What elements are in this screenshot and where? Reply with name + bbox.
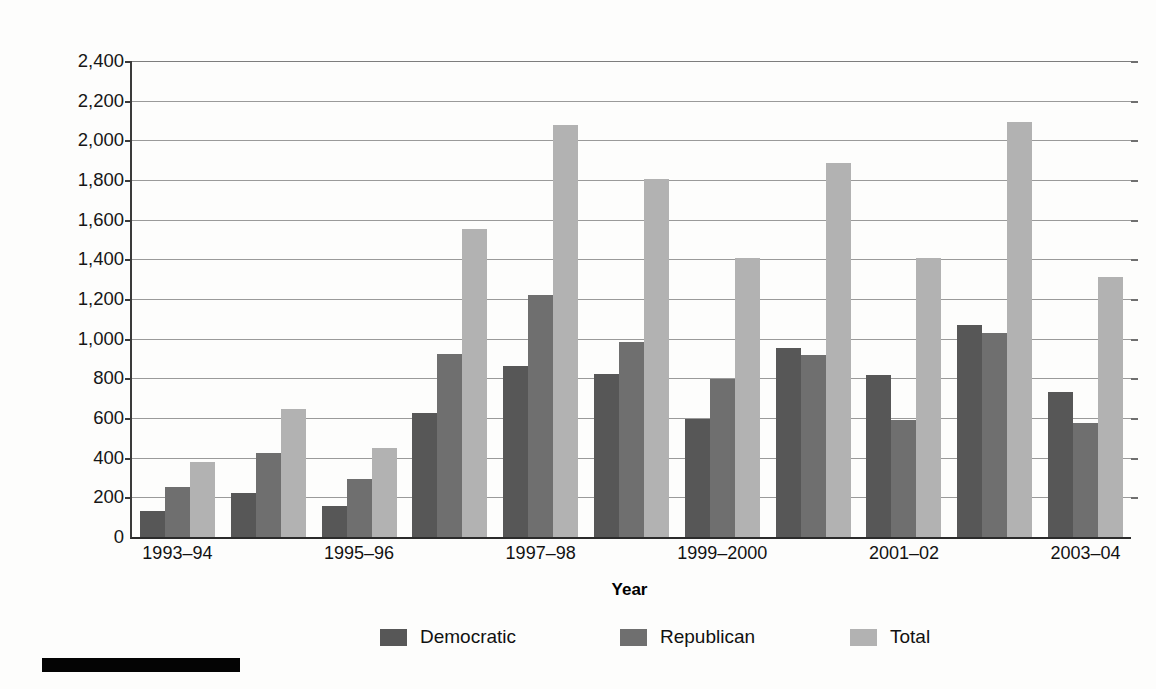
bar-total-2011-12 bbox=[1007, 122, 1032, 538]
y-axis-tick-mark bbox=[125, 180, 132, 182]
bar-republican-2009-10 bbox=[891, 420, 916, 537]
bar-republican-2001-02 bbox=[528, 295, 553, 537]
y-axis-tick-mark bbox=[125, 299, 132, 301]
y-axis-tick-label: 1,200 bbox=[36, 288, 124, 310]
bar-group: 1997–98 bbox=[314, 61, 405, 537]
y-axis-right-tick-mark bbox=[1131, 259, 1138, 261]
legend-label: Republican bbox=[660, 626, 755, 648]
y-axis-tick-mark bbox=[125, 497, 132, 499]
y-axis-right-tick-mark bbox=[1131, 418, 1138, 420]
y-axis-tick-label: 1,800 bbox=[36, 169, 124, 191]
x-axis-tick-label: 2003–04 bbox=[1040, 543, 1131, 564]
bar-total-1999-2000 bbox=[462, 229, 487, 537]
bar-group: 2009–10 bbox=[859, 61, 950, 537]
bar-group: 2003–04 bbox=[586, 61, 677, 537]
bar-democratic-2001-02 bbox=[503, 366, 528, 537]
y-axis-title: Millions of Dollars bbox=[8, 170, 38, 430]
y-axis-right-tick-mark bbox=[1131, 61, 1138, 63]
bar-total-1995-96 bbox=[281, 409, 306, 537]
legend-item-republican[interactable]: Republican bbox=[620, 624, 755, 650]
bar-total-1997-98 bbox=[372, 448, 397, 537]
y-axis-right-tick-mark bbox=[1131, 299, 1138, 301]
bar-group: 1995–96 bbox=[223, 61, 314, 537]
legend-item-democratic[interactable]: Democratic bbox=[380, 624, 516, 650]
x-axis-tick-label: 1997–98 bbox=[495, 543, 586, 564]
bar-group: 2011–12 bbox=[949, 61, 1040, 537]
y-axis-right-tick-mark bbox=[1131, 458, 1138, 460]
y-axis-tick-mark bbox=[125, 378, 132, 380]
bar-democratic-2011-12 bbox=[957, 325, 982, 537]
bar-republican-2011-12 bbox=[982, 333, 1007, 537]
bar-total-1993-94 bbox=[190, 462, 215, 537]
y-axis-tick-mark bbox=[125, 458, 132, 460]
y-axis-right-tick-mark bbox=[1131, 220, 1138, 222]
x-axis-tick-label: 1993–94 bbox=[132, 543, 223, 564]
bar-group: 2007–08 bbox=[768, 61, 859, 537]
bar-republican-1997-98 bbox=[347, 479, 372, 537]
bar-democratic-1999-2000 bbox=[412, 413, 437, 537]
x-axis-tick-label: 2001–02 bbox=[859, 543, 950, 564]
bar-total-2003-04 bbox=[644, 179, 669, 537]
legend-item-total[interactable]: Total bbox=[850, 624, 930, 650]
y-axis-tick-mark bbox=[125, 220, 132, 222]
bar-democratic-2013-14 bbox=[1048, 392, 1073, 537]
y-axis-tick-label: 2,200 bbox=[36, 90, 124, 112]
legend-label: Total bbox=[890, 626, 930, 648]
bar-republican-1995-96 bbox=[256, 453, 281, 537]
bar-republican-1993-94 bbox=[165, 487, 190, 537]
bar-republican-2005-06 bbox=[710, 379, 735, 537]
y-axis-tick-label: 1,600 bbox=[36, 209, 124, 231]
bar-total-2001-02 bbox=[553, 125, 578, 537]
y-axis-right-tick-mark bbox=[1131, 497, 1138, 499]
footer-rule bbox=[42, 658, 240, 672]
legend-swatch-republican bbox=[620, 629, 647, 646]
y-axis-tick-mark bbox=[125, 101, 132, 103]
y-axis-tick-label: 1,400 bbox=[36, 248, 124, 270]
chart-legend: DemocraticRepublicanTotal bbox=[130, 624, 1129, 652]
bar-group: 2013–14 bbox=[1040, 61, 1131, 537]
bar-chart-figure: Millions of Dollars 2,4002,2002,0001,800… bbox=[0, 0, 1156, 689]
bar-republican-2003-04 bbox=[619, 342, 644, 537]
bar-total-2005-06 bbox=[735, 258, 760, 537]
bar-total-2007-08 bbox=[826, 163, 851, 537]
bar-democratic-1995-96 bbox=[231, 493, 256, 537]
legend-swatch-democratic bbox=[380, 629, 407, 646]
bar-democratic-2009-10 bbox=[866, 375, 891, 537]
y-axis-right-tick-mark bbox=[1131, 339, 1138, 341]
bar-democratic-2007-08 bbox=[776, 348, 801, 537]
legend-swatch-total bbox=[850, 629, 877, 646]
bar-group: 1993–94 bbox=[132, 61, 223, 537]
plot-area: 1993–941995–961997–981999–20002001–02200… bbox=[130, 61, 1131, 539]
y-axis-right-tick-mark bbox=[1131, 378, 1138, 380]
y-axis-tick-label: 1,000 bbox=[36, 328, 124, 350]
y-axis-tick-mark bbox=[125, 418, 132, 420]
y-axis-right-tick-mark bbox=[1131, 101, 1138, 103]
bar-republican-2007-08 bbox=[801, 355, 826, 537]
y-axis-tick-labels: 2,4002,2002,0001,8001,6001,4001,2001,000… bbox=[36, 0, 124, 689]
y-axis-tick-label: 0 bbox=[36, 526, 124, 548]
y-axis-tick-label: 200 bbox=[36, 486, 124, 508]
y-axis-tick-label: 400 bbox=[36, 447, 124, 469]
bar-republican-2013-14 bbox=[1073, 423, 1098, 537]
bar-group: 1999–2000 bbox=[404, 61, 495, 537]
legend-label: Democratic bbox=[420, 626, 516, 648]
bar-democratic-2003-04 bbox=[594, 374, 619, 537]
y-axis-tick-label: 800 bbox=[36, 367, 124, 389]
bar-group: 2005–06 bbox=[677, 61, 768, 537]
bar-democratic-1993-94 bbox=[140, 511, 165, 537]
x-axis-title: Year bbox=[130, 580, 1129, 600]
bar-total-2009-10 bbox=[916, 258, 941, 537]
y-axis-tick-label: 600 bbox=[36, 407, 124, 429]
x-axis-tick-label: 1999–2000 bbox=[677, 543, 768, 564]
y-axis-tick-label: 2,400 bbox=[36, 50, 124, 72]
bar-group: 2001–02 bbox=[495, 61, 586, 537]
y-axis-tick-mark bbox=[125, 259, 132, 261]
y-axis-right-tick-mark bbox=[1131, 180, 1138, 182]
bar-republican-1999-2000 bbox=[437, 354, 462, 537]
y-axis-tick-mark bbox=[125, 140, 132, 142]
bar-total-2013-14 bbox=[1098, 277, 1123, 537]
y-axis-tick-mark bbox=[125, 339, 132, 341]
bar-democratic-2005-06 bbox=[685, 419, 710, 537]
bar-democratic-1997-98 bbox=[322, 506, 347, 537]
y-axis-right-tick-mark bbox=[1131, 140, 1138, 142]
